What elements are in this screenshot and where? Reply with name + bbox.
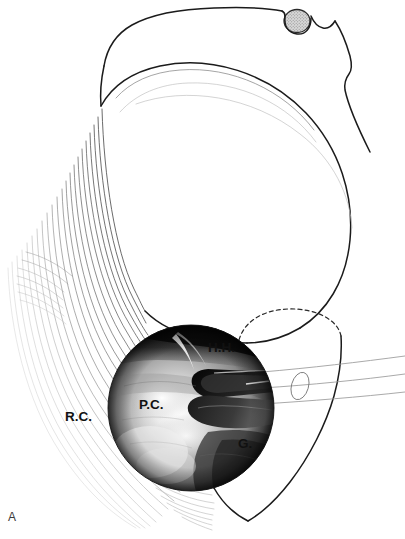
label-glenoid: G. — [238, 436, 252, 451]
acromioclavicular-joint-marker — [284, 10, 311, 35]
arthroscopic-photograph — [108, 325, 274, 491]
shoulder-arthroscopy-figure: H.H. P.C. R.C. G. A — [0, 0, 405, 539]
label-posterior-capsule: P.C. — [139, 397, 164, 412]
label-humeral-head: H.H. — [208, 340, 235, 355]
panel-letter: A — [8, 510, 16, 524]
figure-container: H.H. P.C. R.C. G. A — [0, 0, 405, 539]
label-rotator-cuff: R.C. — [65, 409, 92, 424]
